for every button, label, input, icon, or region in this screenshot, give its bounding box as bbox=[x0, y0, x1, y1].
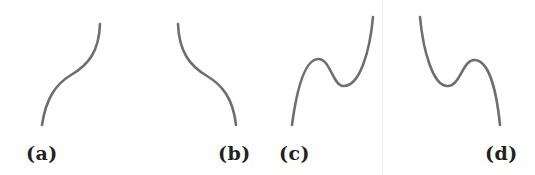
panel-label-c: (c) bbox=[279, 144, 310, 163]
curve-d bbox=[420, 17, 500, 125]
curve-a bbox=[42, 24, 100, 125]
curves-canvas bbox=[0, 0, 535, 175]
panel-label-b: (b) bbox=[218, 144, 251, 163]
curve-b bbox=[178, 24, 236, 125]
panel-label-d: (d) bbox=[485, 144, 518, 163]
panel-label-a: (a) bbox=[26, 144, 58, 163]
curve-c bbox=[292, 17, 373, 125]
